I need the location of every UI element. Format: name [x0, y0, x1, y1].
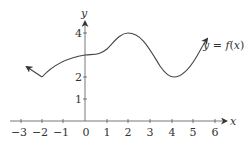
y-tick-label: 4 — [75, 27, 82, 40]
x-tick-label: 5 — [190, 126, 197, 139]
x-tick-label: −2 — [32, 126, 48, 139]
x-tick-label: 3 — [147, 126, 154, 139]
x-tick-label: −3 — [11, 126, 27, 139]
y-tick-labels: 1 2 4 — [75, 27, 82, 106]
function-label: y = f(x) — [202, 39, 244, 52]
x-axis-label: x — [230, 115, 237, 128]
function-curve-left — [27, 67, 42, 77]
y-axis-label: y — [80, 7, 88, 20]
function-curve — [42, 33, 207, 77]
y-tick-label: 2 — [75, 71, 82, 84]
x-tick-label: −1 — [53, 126, 69, 139]
y-tick-label: 1 — [75, 93, 82, 106]
x-tick-label: 1 — [104, 126, 111, 139]
x-tick-label: 6 — [212, 126, 219, 139]
x-tick-label: 4 — [169, 126, 176, 139]
x-tick-labels: −3 −2 −1 0 1 2 3 4 5 6 — [11, 126, 219, 139]
function-graph: −3 −2 −1 0 1 2 3 4 5 6 1 2 4 y x y = f(x… — [0, 0, 251, 147]
x-tick-label: 0 — [83, 126, 90, 139]
x-tick-label: 2 — [125, 126, 132, 139]
